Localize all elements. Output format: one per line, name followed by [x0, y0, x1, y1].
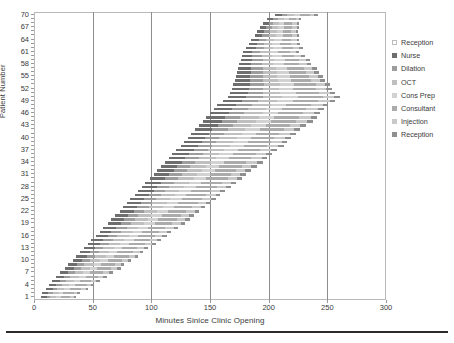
- bar-segment-injection: [236, 169, 245, 171]
- bar-segment-nurse: [255, 34, 262, 36]
- bar-segment-consultant: [108, 259, 122, 261]
- bar-segment-oct: [99, 251, 110, 253]
- bar-segment-consultant: [174, 206, 193, 208]
- bar-row: [34, 149, 277, 151]
- bar-segment-reception: [300, 124, 306, 126]
- bar-segment-dilation: [232, 108, 247, 110]
- legend-item-reception-7[interactable]: Reception: [392, 128, 454, 141]
- y-tick-mark: [31, 149, 34, 150]
- x-tick-label-100: 100: [145, 303, 158, 312]
- bar-segment-oct: [263, 59, 275, 61]
- bar-row: [34, 271, 113, 273]
- bar-segment-cons-prep: [90, 267, 97, 269]
- y-tick-label-31: 31: [21, 169, 29, 178]
- legend-item-cons-prep-4[interactable]: Cons Prep: [392, 89, 454, 102]
- bar-segment-nurse: [184, 141, 202, 143]
- bar-segment-consultant: [196, 186, 217, 188]
- bar-segment-injection: [299, 116, 311, 118]
- bar-segment-dilation: [256, 47, 264, 49]
- bar-row: [34, 141, 287, 143]
- y-tick-label-67: 67: [21, 22, 29, 31]
- bar-segment-reception: [41, 280, 52, 282]
- bar-row: [34, 104, 328, 106]
- bar-row: [34, 137, 291, 139]
- bar-segment-reception: [314, 71, 319, 73]
- y-tick-label-28: 28: [21, 181, 29, 190]
- legend-item-consultant-5[interactable]: Consultant: [392, 102, 454, 115]
- bar-segment-dilation: [189, 153, 203, 155]
- bar-segment-nurse: [172, 153, 188, 155]
- bar-segment-injection: [299, 59, 306, 61]
- bar-segment-dilation: [68, 271, 75, 273]
- bar-segment-reception: [294, 128, 300, 130]
- bar-segment-dilation: [74, 267, 81, 269]
- bar-segment-reception: [237, 177, 242, 179]
- bar-segment-oct: [75, 271, 83, 273]
- bar-segment-reception: [164, 137, 187, 139]
- bar-segment-reception: [206, 92, 229, 94]
- legend-swatch-icon: [392, 40, 397, 45]
- bar-segment-reception: [251, 165, 257, 167]
- bar-row: [34, 198, 216, 200]
- bar-segment-cons-prep: [175, 194, 187, 196]
- bar-segment-injection: [228, 177, 237, 179]
- bar-segment-reception: [157, 239, 161, 241]
- y-tick-mark: [31, 34, 34, 35]
- bar-segment-reception: [226, 186, 231, 188]
- legend-item-dilation-2[interactable]: Dilation: [392, 62, 454, 75]
- bar-segment-oct: [216, 141, 234, 143]
- bar-segment-cons-prep: [170, 198, 182, 200]
- bar-segment-nurse: [52, 280, 60, 282]
- bar-segment-oct: [264, 43, 272, 45]
- bar-segment-reception: [117, 267, 121, 269]
- bar-segment-consultant: [293, 88, 315, 90]
- legend-item-reception-0[interactable]: Reception: [392, 36, 454, 49]
- bar-segment-cons-prep: [151, 214, 162, 216]
- bar-segment-oct: [228, 128, 246, 130]
- bar-segment-injection: [260, 149, 271, 151]
- bar-segment-reception: [185, 112, 210, 114]
- bar-row: [34, 206, 205, 208]
- bar-segment-reception: [185, 218, 190, 220]
- bar-segment-injection: [284, 128, 295, 130]
- bar-segment-consultant: [155, 222, 173, 224]
- bar-segment-oct: [161, 194, 175, 196]
- bar-segment-dilation: [251, 67, 263, 69]
- y-tick-mark: [31, 169, 34, 170]
- bar-segment-oct: [263, 67, 276, 69]
- bar-row: [34, 227, 178, 229]
- bar-segment-reception: [97, 214, 115, 216]
- bar-segment-cons-prep: [206, 165, 219, 167]
- bar-segment-oct: [263, 88, 279, 90]
- y-tick-mark: [31, 51, 34, 52]
- legend-label: Injection: [401, 117, 428, 126]
- bar-row: [34, 153, 272, 155]
- y-tick-mark: [31, 288, 34, 289]
- bar-segment-dilation: [246, 96, 262, 98]
- bar-segment-reception: [330, 100, 336, 102]
- bar-row: [34, 22, 299, 24]
- legend-item-injection-6[interactable]: Injection: [392, 115, 454, 128]
- y-tick-mark: [31, 79, 34, 80]
- bar-row: [34, 280, 100, 282]
- y-tick-mark: [31, 276, 34, 277]
- bar-segment-nurse: [214, 108, 233, 110]
- y-tick-mark: [31, 145, 34, 146]
- bar-segment-reception: [144, 247, 148, 249]
- bar-segment-reception: [222, 67, 238, 69]
- bar-segment-reception: [34, 296, 41, 298]
- bar-segment-reception: [242, 39, 251, 41]
- bar-segment-cons-prep: [194, 177, 207, 179]
- bar-segment-cons-prep: [184, 186, 196, 188]
- bar-segment-consultant: [289, 71, 307, 73]
- bar-segment-reception: [318, 108, 324, 110]
- legend-item-nurse-1[interactable]: Nurse: [392, 49, 454, 62]
- bar-segment-reception: [69, 247, 84, 249]
- bar-segment-injection: [323, 96, 335, 98]
- y-tick-label-52: 52: [21, 83, 29, 92]
- bar-segment-reception: [162, 235, 167, 237]
- legend-item-oct-3[interactable]: OCT: [392, 76, 454, 89]
- bar-segment-dilation: [121, 222, 132, 224]
- bar-segment-oct: [195, 161, 211, 163]
- bar-segment-reception: [73, 243, 88, 245]
